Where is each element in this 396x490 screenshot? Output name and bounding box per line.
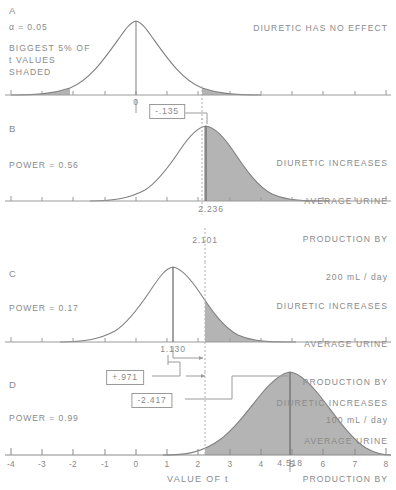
x-tick-label-11: 7 xyxy=(352,459,357,469)
x-tick-label-3: -1 xyxy=(101,459,109,469)
x-tick-label-4: 0 xyxy=(133,459,138,469)
panel-a-offset-box: -.135 xyxy=(149,104,185,119)
panel-d-heading-line1: DIURETIC INCREASES xyxy=(276,397,388,410)
panel-d-heading-line2: AVERAGE URINE xyxy=(276,435,388,448)
x-tick-label-5: 1 xyxy=(164,459,169,469)
panel-b-heading-line3: PRODUCTION BY xyxy=(276,233,388,246)
panel-a-letter: A xyxy=(9,5,16,16)
x-tick-label-1: -3 xyxy=(38,459,46,469)
panel-a-note-line3: SHADED xyxy=(9,67,51,77)
panel-a-center-label: 0 xyxy=(133,97,139,107)
x-tick-label-7: 3 xyxy=(227,459,232,469)
panel-c-curve xyxy=(60,267,296,342)
panel-c-heading-line2: AVERAGE URINE xyxy=(276,338,388,351)
panel-b-power-label: POWER = 0.56 xyxy=(9,160,79,170)
x-tick-label-6: 2 xyxy=(195,459,200,469)
panel-d-offset-box-2: -2.417 xyxy=(131,393,172,408)
panel-d-power-label: POWER = 0.99 xyxy=(9,413,79,423)
panel-b-center-label: 2.236 xyxy=(198,204,224,214)
x-tick-label-2: -2 xyxy=(69,459,77,469)
panel-a-alpha-label: α = 0.05 xyxy=(9,22,48,32)
panel-c-arrowhead xyxy=(199,356,203,360)
panel-c-power-label: POWER = 0.17 xyxy=(9,303,79,313)
x-tick-label-12: 8 xyxy=(383,459,388,469)
panel-b-letter: B xyxy=(9,123,16,134)
panel-c-letter: C xyxy=(9,268,16,279)
panel-b-heading-line1: DIURETIC INCREASES xyxy=(276,157,388,170)
x-tick-label-0: -4 xyxy=(7,459,15,469)
panel-c-shade xyxy=(60,267,296,342)
panel-d-heading-line3: PRODUCTION BY xyxy=(276,473,388,486)
panel-a-note-line2: t VALUES xyxy=(9,55,56,65)
x-tick-label-10: 6 xyxy=(320,459,325,469)
panel-d-offset-box-1: +.971 xyxy=(106,370,144,385)
x-axis-title: VALUE OF t xyxy=(167,474,229,484)
panel-a-note-line1: BIGGEST 5% OF xyxy=(9,43,90,53)
panel-d-arrowhead-1 xyxy=(201,374,205,378)
power-curves-figure: A α = 0.05 BIGGEST 5% OF t VALUES SHADED… xyxy=(0,0,396,490)
panel-a-plot xyxy=(5,21,391,124)
panel-d-letter: D xyxy=(9,379,16,390)
panel-c-center-label: 1.130 xyxy=(160,344,186,354)
critical-value-label: 2.101 xyxy=(192,235,218,245)
x-tick-label-8: 4 xyxy=(258,459,263,469)
x-tick-label-9: 5 xyxy=(289,459,294,469)
panel-b-heading-line2: AVERAGE URINE xyxy=(276,195,388,208)
panel-a-heading: DIURETIC HAS NO EFFECT xyxy=(253,22,388,35)
panel-c-heading-line1: DIURETIC INCREASES xyxy=(276,300,388,313)
